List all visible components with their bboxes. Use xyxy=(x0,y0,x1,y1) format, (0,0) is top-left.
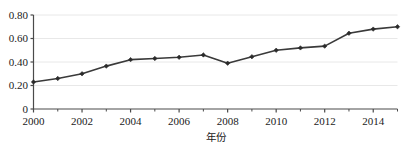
x-axis-tick-label: 2008 xyxy=(217,115,240,127)
x-axis-title: 年份 xyxy=(206,131,227,143)
x-axis-tick-label: 2012 xyxy=(314,115,336,127)
x-axis-tick-label: 2014 xyxy=(362,115,385,127)
x-axis-tick-label: 2006 xyxy=(168,115,191,127)
chart-canvas: 00.200.400.600.8020002002200420062008201… xyxy=(0,0,414,149)
line-chart: 00.200.400.600.8020002002200420062008201… xyxy=(0,0,414,149)
x-axis-tick-label: 2002 xyxy=(71,115,93,127)
y-axis-tick-label: 0.60 xyxy=(9,32,29,44)
y-axis-tick-label: 0 xyxy=(23,103,29,115)
x-axis-tick-label: 2004 xyxy=(120,115,143,127)
y-axis-tick-label: 0.40 xyxy=(9,56,29,68)
x-axis-tick-label: 2010 xyxy=(265,115,288,127)
y-axis-tick-label: 0.80 xyxy=(9,9,29,21)
x-axis-tick-label: 2000 xyxy=(23,115,46,127)
chart-background xyxy=(0,0,414,149)
y-axis-tick-label: 0.20 xyxy=(9,79,29,91)
